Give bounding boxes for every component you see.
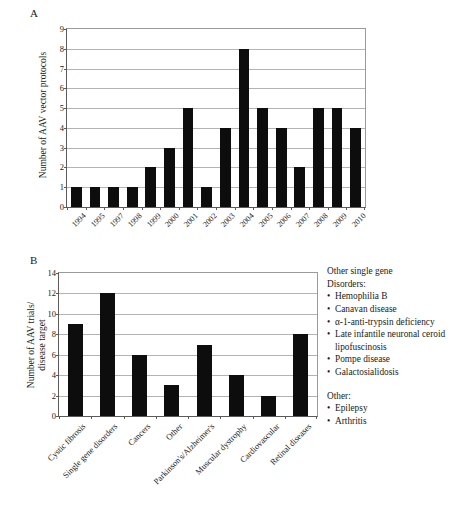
bar-slot bbox=[346, 29, 365, 207]
x-axis-tick-label: 2005 bbox=[257, 212, 274, 229]
bar-slot bbox=[272, 29, 291, 207]
x-axis-tick-label: 2010 bbox=[350, 212, 367, 229]
x-axis-tick-mark bbox=[309, 207, 310, 210]
panel-a: A Number of AAV vector protocols 0123456… bbox=[0, 0, 453, 250]
other-list: •Epilepsy•Arthritis bbox=[327, 402, 453, 427]
panel-b: B Number of AAV trials/ disease target 0… bbox=[0, 250, 453, 511]
bar-slot bbox=[188, 273, 220, 416]
panel-b-plot-area: 02468101214Cystic fibrosisSingle gene di… bbox=[58, 272, 318, 417]
x-axis-tick-label: 1997 bbox=[108, 212, 125, 229]
bar-slot bbox=[291, 29, 310, 207]
x-axis-tick-label: 1994 bbox=[71, 212, 88, 229]
bar[interactable] bbox=[313, 108, 324, 207]
panel-b-y-axis-title-line2: disease target bbox=[37, 270, 48, 420]
single-gene-list-item-text: α-1-anti-trypsin deficiency bbox=[335, 317, 435, 327]
x-axis-tick-mark bbox=[123, 207, 124, 210]
x-axis-tick-mark bbox=[272, 207, 273, 210]
bullet-icon: • bbox=[327, 366, 330, 379]
panel-b-letter: B bbox=[30, 254, 38, 266]
bar[interactable] bbox=[127, 187, 138, 207]
bar-group bbox=[59, 273, 317, 416]
bar[interactable] bbox=[257, 108, 268, 207]
bar[interactable] bbox=[145, 167, 156, 207]
x-axis-tick-label: 2004 bbox=[239, 212, 256, 229]
bar-slot bbox=[197, 29, 216, 207]
panel-a-letter: A bbox=[30, 7, 38, 19]
bullet-icon: • bbox=[327, 316, 330, 329]
bar-slot bbox=[253, 29, 272, 207]
x-axis-tick-label: 2008 bbox=[313, 212, 330, 229]
x-axis-tick-mark bbox=[285, 416, 286, 419]
bar-slot bbox=[124, 273, 156, 416]
bar[interactable] bbox=[201, 187, 212, 207]
bullet-icon: • bbox=[327, 402, 330, 415]
single-gene-heading-line2: Disorders: bbox=[327, 278, 453, 291]
x-axis-tick-label: 1998 bbox=[127, 212, 144, 229]
bullet-icon: • bbox=[327, 328, 330, 341]
bar-slot bbox=[179, 29, 198, 207]
bar[interactable] bbox=[183, 108, 194, 207]
figure-container: A Number of AAV vector protocols 0123456… bbox=[0, 0, 453, 511]
other-list-item: •Arthritis bbox=[327, 415, 453, 428]
bar[interactable] bbox=[71, 187, 82, 207]
side-notes-spacer bbox=[327, 379, 453, 390]
bar-slot bbox=[235, 29, 254, 207]
x-axis-tick-mark bbox=[253, 416, 254, 419]
bar[interactable] bbox=[164, 385, 179, 416]
bar[interactable] bbox=[293, 334, 308, 416]
bar[interactable] bbox=[229, 375, 244, 416]
bar[interactable] bbox=[220, 128, 231, 207]
single-gene-list: •Hemophilia B•Canavan disease•α-1-anti-t… bbox=[327, 290, 453, 378]
single-gene-list-item: •Late infantile neuronal ceroid lipofusc… bbox=[327, 328, 453, 353]
single-gene-list-item: •Canavan disease bbox=[327, 303, 453, 316]
x-axis-tick-mark bbox=[253, 207, 254, 210]
bar-slot bbox=[104, 29, 123, 207]
other-list-item-text: Arthritis bbox=[335, 416, 367, 426]
bar-slot bbox=[91, 273, 123, 416]
x-axis-tick-label: 2000 bbox=[164, 212, 181, 229]
bar-group bbox=[67, 29, 365, 207]
y-axis-tick-label: 10 bbox=[48, 310, 57, 319]
x-axis-tick-mark bbox=[316, 416, 317, 419]
x-axis-tick-mark bbox=[156, 416, 157, 419]
bar[interactable] bbox=[197, 345, 212, 417]
bar[interactable] bbox=[132, 355, 147, 416]
x-axis-tick-mark bbox=[91, 416, 92, 419]
x-axis-tick-label: 2009 bbox=[332, 212, 349, 229]
bar[interactable] bbox=[108, 187, 119, 207]
x-axis-tick-mark bbox=[188, 416, 189, 419]
bar[interactable] bbox=[261, 396, 276, 416]
bar-slot bbox=[253, 273, 285, 416]
single-gene-list-item-text: Galactosialidosis bbox=[335, 367, 399, 377]
bar-slot bbox=[123, 29, 142, 207]
bar[interactable] bbox=[294, 167, 305, 207]
other-list-item-text: Epilepsy bbox=[335, 403, 368, 413]
other-heading: Other: bbox=[327, 390, 453, 403]
single-gene-list-item-text: Canavan disease bbox=[335, 304, 397, 314]
x-axis-tick-label: Other bbox=[164, 422, 184, 442]
bar[interactable] bbox=[332, 108, 343, 207]
x-axis-tick-mark bbox=[104, 207, 105, 210]
x-axis-tick-mark bbox=[364, 207, 365, 210]
bar[interactable] bbox=[164, 148, 175, 207]
single-gene-list-item-text: Pompe disease bbox=[335, 354, 390, 364]
bar[interactable] bbox=[68, 324, 83, 416]
single-gene-list-item-text: Late infantile neuronal ceroid lipofusci… bbox=[335, 329, 445, 352]
x-axis-tick-mark bbox=[142, 207, 143, 210]
bar[interactable] bbox=[276, 128, 287, 207]
bar[interactable] bbox=[100, 293, 115, 416]
bar[interactable] bbox=[90, 187, 101, 207]
x-axis-tick-label: 1999 bbox=[145, 212, 162, 229]
bar[interactable] bbox=[239, 49, 250, 207]
x-axis-tick-mark bbox=[291, 207, 292, 210]
x-axis-tick-label: 2002 bbox=[201, 212, 218, 229]
x-axis-tick-mark bbox=[86, 207, 87, 210]
bar-slot bbox=[86, 29, 105, 207]
bullet-icon: • bbox=[327, 303, 330, 316]
panel-b-y-axis-title-line1: Number of AAV trials/ bbox=[26, 270, 37, 420]
bar[interactable] bbox=[350, 128, 361, 207]
x-axis-tick-label: 2001 bbox=[183, 212, 200, 229]
bar-slot bbox=[285, 273, 317, 416]
single-gene-list-item: •α-1-anti-trypsin deficiency bbox=[327, 316, 453, 329]
x-axis-tick-mark bbox=[220, 416, 221, 419]
